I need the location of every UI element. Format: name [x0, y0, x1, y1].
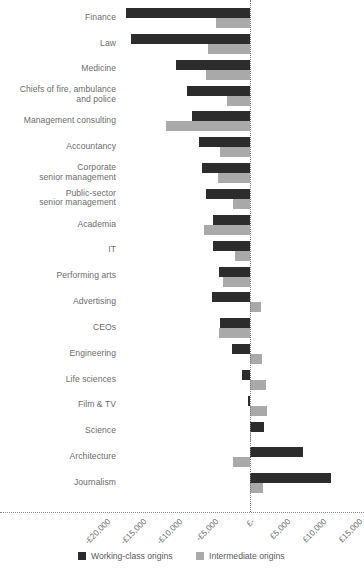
zero-reference-line	[250, 0, 251, 512]
category-label: Film & TV	[0, 400, 116, 410]
category-label-line: Performing arts	[0, 271, 116, 281]
category-label: Academia	[0, 220, 116, 230]
bar-intermediate	[206, 70, 250, 80]
category-label-line: Management consulting	[0, 116, 116, 126]
class-pay-gap-bar-chart: FinanceLawMedicineChiefs of fire, ambula…	[0, 0, 364, 572]
legend-item[interactable]: Working-class origins	[78, 551, 173, 561]
category-label-line: Journalism	[0, 478, 116, 488]
category-label: CEOs	[0, 323, 116, 333]
category-label-line: Advertising	[0, 297, 116, 307]
bar-intermediate	[250, 380, 266, 390]
bar-intermediate	[166, 121, 250, 131]
category-label: Finance	[0, 13, 116, 23]
category-label-line: and police	[0, 95, 116, 105]
category-label: Chiefs of fire, ambulanceand police	[0, 85, 116, 104]
bar-working-class	[176, 60, 250, 70]
category-label: Journalism	[0, 478, 116, 488]
bar-working-class	[131, 34, 250, 44]
bar-intermediate	[227, 96, 250, 106]
category-label-line: CEOs	[0, 323, 116, 333]
bar-intermediate	[235, 251, 250, 261]
bar-intermediate	[219, 328, 250, 338]
bar-working-class	[219, 267, 250, 277]
category-label-line: Science	[0, 426, 116, 436]
bar-intermediate	[204, 225, 250, 235]
bar-intermediate	[208, 44, 250, 54]
category-label-line: Engineering	[0, 349, 116, 359]
bar-intermediate	[233, 199, 250, 209]
category-label: Life sciences	[0, 375, 116, 385]
bar-intermediate	[223, 277, 250, 287]
bar-working-class	[250, 473, 331, 483]
legend-swatch-icon	[78, 552, 86, 560]
bar-intermediate	[218, 173, 250, 183]
legend-item[interactable]: Intermediate origins	[196, 551, 284, 561]
bar-intermediate	[250, 302, 261, 312]
bar-working-class	[250, 422, 264, 432]
plot-area: FinanceLawMedicineChiefs of fire, ambula…	[0, 0, 364, 512]
category-label: Management consulting	[0, 116, 116, 126]
category-label: Corporatesenior management	[0, 163, 116, 182]
bar-working-class	[213, 215, 250, 225]
category-label: IT	[0, 245, 116, 255]
category-label: Science	[0, 426, 116, 436]
bar-working-class	[206, 189, 250, 199]
bar-working-class	[242, 370, 250, 380]
bar-working-class	[213, 241, 250, 251]
legend-label: Working-class origins	[91, 551, 173, 561]
category-label-line: senior management	[0, 198, 116, 208]
category-label: Law	[0, 39, 116, 49]
x-axis-tick-labels: -£20,000-£15,000-£10,000-£5,000£-£5,000£…	[0, 517, 364, 563]
bar-intermediate	[250, 354, 262, 364]
bar-intermediate	[216, 18, 250, 28]
category-label: Performing arts	[0, 271, 116, 281]
bar-working-class	[199, 137, 250, 147]
bar-working-class	[232, 344, 250, 354]
bar-working-class	[202, 163, 250, 173]
category-label: Advertising	[0, 297, 116, 307]
legend-swatch-icon	[196, 552, 204, 560]
bar-working-class	[187, 86, 250, 96]
category-label: Architecture	[0, 452, 116, 462]
category-label: Accountancy	[0, 142, 116, 152]
bar-intermediate	[250, 406, 267, 416]
bar-working-class	[250, 447, 303, 457]
category-label-line: Law	[0, 39, 116, 49]
bar-intermediate	[250, 483, 263, 493]
x-axis-rule	[0, 512, 364, 513]
category-label-line: Architecture	[0, 452, 116, 462]
category-label-line: Film & TV	[0, 400, 116, 410]
category-label: Engineering	[0, 349, 116, 359]
category-label-line: Finance	[0, 13, 116, 23]
category-label: Public-sectorsenior management	[0, 189, 116, 208]
category-label-line: Academia	[0, 220, 116, 230]
bar-working-class	[212, 292, 250, 302]
bar-working-class	[192, 111, 250, 121]
category-label-line: Life sciences	[0, 375, 116, 385]
bar-intermediate	[233, 457, 250, 467]
bar-intermediate	[220, 147, 250, 157]
category-label-line: senior management	[0, 173, 116, 183]
category-label: Medicine	[0, 64, 116, 74]
bar-working-class	[126, 8, 250, 18]
category-label-line: Accountancy	[0, 142, 116, 152]
category-label-line: Medicine	[0, 64, 116, 74]
legend-label: Intermediate origins	[209, 551, 284, 561]
category-label-line: IT	[0, 245, 116, 255]
bar-working-class	[220, 318, 250, 328]
